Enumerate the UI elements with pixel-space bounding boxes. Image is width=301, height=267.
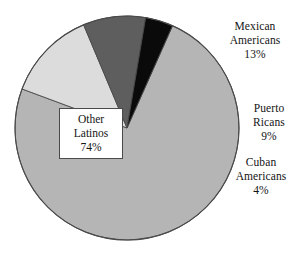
slice-label-line-1: Cuban [224, 155, 298, 169]
slice-label-value: 4% [224, 183, 298, 197]
slice-label-cuban-americans: Cuban Americans 4% [224, 155, 298, 197]
slice-label-line-1: Other [64, 112, 118, 126]
slice-label-line-1: Mexican [214, 19, 296, 33]
slice-label-puerto-ricans: Puerto Ricans 9% [240, 101, 298, 143]
slice-label-line-1: Puerto [240, 101, 298, 115]
slice-label-value: 74% [64, 140, 118, 154]
slice-label-value: 9% [240, 129, 298, 143]
slice-label-line-2: Latinos [64, 126, 118, 140]
pie-chart-figure: Mexican Americans 13% Puerto Ricans 9% C… [0, 0, 301, 267]
slice-label-line-2: Ricans [240, 115, 298, 129]
slice-label-value: 13% [214, 47, 296, 61]
slice-label-line-2: Americans [214, 33, 296, 47]
pie-slice-group [15, 16, 239, 240]
slice-label-other-latinos: Other Latinos 74% [59, 108, 123, 159]
slice-label-line-2: Americans [224, 169, 298, 183]
slice-label-mexican-americans: Mexican Americans 13% [214, 19, 296, 61]
